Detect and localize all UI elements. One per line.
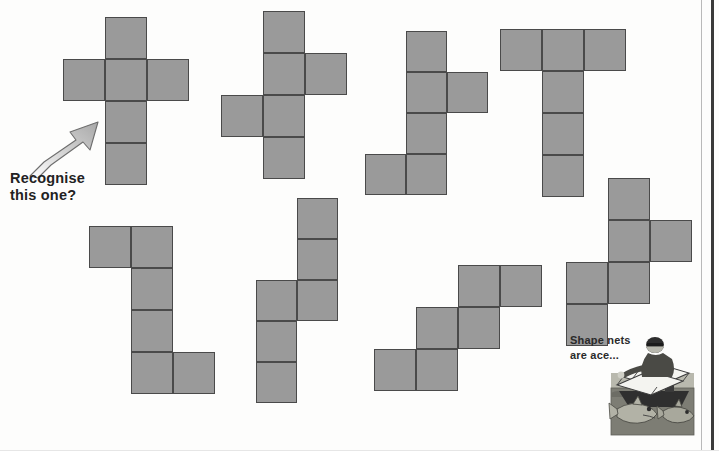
- net-square: [131, 268, 173, 310]
- net-square: [416, 349, 458, 391]
- net-square: [221, 95, 263, 137]
- net-square: [608, 178, 650, 220]
- net-square: [131, 352, 173, 394]
- net-square: [105, 143, 147, 185]
- net-square: [406, 31, 447, 72]
- net-square: [147, 59, 189, 101]
- cartoon-illustration: [593, 325, 708, 444]
- net-square: [105, 101, 147, 143]
- net-square: [416, 307, 458, 349]
- net-square: [566, 262, 608, 304]
- net-square: [297, 198, 338, 239]
- net-square: [173, 352, 215, 394]
- page-edge-outline: [701, 0, 702, 451]
- net-square: [458, 307, 500, 349]
- net-square: [263, 137, 305, 179]
- net-square: [131, 226, 173, 268]
- net-square: [365, 154, 406, 195]
- net-square: [297, 239, 338, 280]
- net-square: [89, 226, 131, 268]
- page-binding-edge: [711, 0, 714, 451]
- net-square: [608, 220, 650, 262]
- net-square: [131, 310, 173, 352]
- net-square: [374, 349, 416, 391]
- net-square: [458, 265, 500, 307]
- worksheet-page: Recognise this one? Shape nets are ace..…: [0, 0, 719, 451]
- fisherman-net-icon: [593, 325, 708, 440]
- net-square: [406, 72, 447, 113]
- net-square: [256, 321, 297, 362]
- net-square: [297, 280, 338, 321]
- net-square: [447, 72, 488, 113]
- recognise-caption: Recognise this one?: [10, 170, 85, 204]
- net-square: [542, 113, 584, 155]
- net-square: [542, 155, 584, 197]
- net-square: [105, 59, 147, 101]
- net-square: [608, 262, 650, 304]
- net-square: [406, 154, 447, 195]
- net-square: [305, 53, 347, 95]
- net-square: [542, 29, 584, 71]
- net-square: [584, 29, 626, 71]
- net-square: [105, 17, 147, 59]
- net-square: [256, 280, 297, 321]
- net-square: [263, 11, 305, 53]
- net-square: [263, 53, 305, 95]
- net-square: [406, 113, 447, 154]
- net-square: [650, 220, 692, 262]
- net-square: [256, 362, 297, 403]
- net-square: [500, 29, 542, 71]
- net-square: [263, 95, 305, 137]
- net-square: [500, 265, 542, 307]
- net-square: [542, 71, 584, 113]
- net-square: [63, 59, 105, 101]
